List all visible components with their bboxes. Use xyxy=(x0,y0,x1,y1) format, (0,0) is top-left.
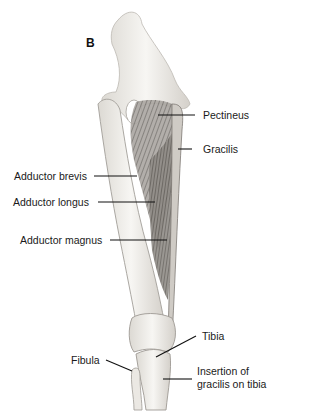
label-adductor-magnus: Adductor magnus xyxy=(20,234,102,246)
label-pectineus: Pectineus xyxy=(203,109,249,121)
femur-condyles xyxy=(129,314,175,353)
label-fibula: Fibula xyxy=(71,354,100,366)
label-tibia: Tibia xyxy=(202,330,224,342)
anatomy-figure: B Pectineus Gracilis Adductor brevis Add… xyxy=(0,0,325,416)
panel-letter: B xyxy=(86,36,95,50)
label-gracilis: Gracilis xyxy=(203,143,238,155)
label-insertion-line2: gracilis on tibia xyxy=(197,378,266,390)
label-insertion-line1: Insertion of xyxy=(197,365,249,377)
label-adductor-brevis: Adductor brevis xyxy=(14,170,87,182)
label-adductor-longus: Adductor longus xyxy=(13,196,89,208)
thigh-illustration xyxy=(0,0,325,416)
